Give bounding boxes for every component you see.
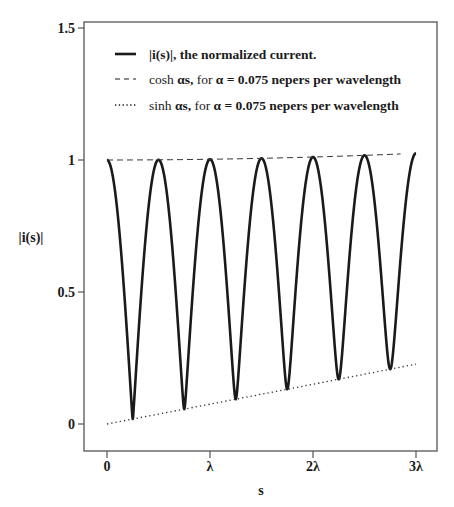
- legend-item-label: |i(s)|, the normalized current.: [149, 47, 316, 62]
- x-tick-label: 0: [104, 459, 111, 474]
- legend-item-label: cosh αs, for α = 0.075 nepers per wavele…: [149, 72, 402, 87]
- x-axis: 0λ2λ3λ: [104, 451, 424, 474]
- legend-text-part: for: [191, 98, 214, 113]
- y-axis: 00.511.5: [58, 21, 85, 432]
- legend-item-label: sinh αs, for α = 0.075 nepers per wavele…: [149, 98, 399, 113]
- y-axis-label: |i(s)|: [19, 230, 44, 246]
- legend-text-part: αs,: [175, 98, 191, 113]
- y-tick-label: 0.5: [58, 285, 76, 300]
- legend-text-part: cosh: [149, 72, 177, 87]
- legend-text-part: |i(s)|, the normalized current.: [149, 47, 316, 62]
- x-axis-label: s: [258, 483, 264, 498]
- series-current-magnitude: [107, 153, 416, 419]
- x-tick-label: 3λ: [409, 459, 423, 474]
- legend-text-part: αs,: [177, 72, 193, 87]
- series-sinh: [107, 364, 416, 424]
- legend-text-part: α = 0.075 nepers per wavelength: [214, 98, 400, 113]
- y-tick-label: 0: [68, 417, 75, 432]
- y-tick-label: 1.5: [58, 21, 76, 36]
- plot-series: [107, 153, 416, 424]
- legend-text-part: for: [193, 72, 216, 87]
- legend-text-part: α = 0.075 nepers per wavelength: [216, 72, 402, 87]
- y-tick-label: 1: [68, 153, 75, 168]
- x-tick-label: 2λ: [306, 459, 320, 474]
- chart-canvas: 00.511.5 0λ2λ3λ |i(s)| s |i(s)|, the nor…: [0, 0, 454, 507]
- series-cosh: [107, 154, 401, 160]
- x-tick-label: λ: [207, 459, 214, 474]
- legend-text-part: sinh: [149, 98, 175, 113]
- legend: |i(s)|, the normalized current.cosh αs, …: [115, 47, 402, 113]
